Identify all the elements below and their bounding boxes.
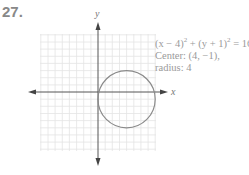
graph [0,0,249,175]
x-axis-label: x [171,86,175,97]
center-line: Center: (4, −1), [155,50,249,62]
radius-line: radius: 4 [155,62,249,74]
x-axis-right-arrow-icon [160,90,168,95]
x-axis-left-arrow-icon [28,90,36,95]
equation-line: (x − 4)2 + (y + 1)2 = 16 [155,34,249,50]
equation-annotation: (x − 4)2 + (y + 1)2 = 16 Center: (4, −1)… [155,34,249,74]
y-axis-label: y [95,8,99,19]
y-axis-up-arrow-icon [96,22,101,30]
y-axis-down-arrow-icon [96,158,101,166]
